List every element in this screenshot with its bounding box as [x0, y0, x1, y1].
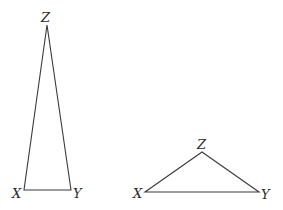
vertex-label-x: X [11, 186, 22, 201]
triangle-tall: Z X Y [11, 10, 83, 201]
vertex-label-y: Y [261, 187, 271, 202]
vertex-label-y: Y [73, 186, 83, 201]
vertex-label-x: X [132, 186, 143, 201]
triangle-wide-outline [145, 152, 259, 192]
vertex-label-z: Z [40, 10, 51, 25]
triangle-wide: Z X Y [132, 137, 271, 202]
diagram-canvas: Z X Y Z X Y [0, 0, 283, 210]
vertex-label-z: Z [196, 137, 207, 152]
triangle-tall-outline [24, 25, 71, 190]
